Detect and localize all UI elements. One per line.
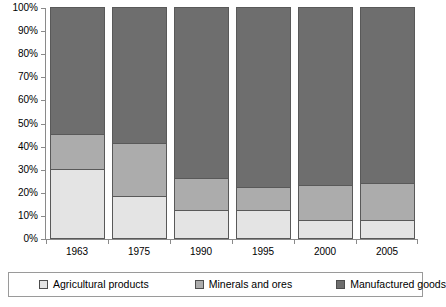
bars-layer <box>46 8 418 239</box>
legend-swatch-icon <box>39 280 48 289</box>
x-tick-label: 2000 <box>314 246 336 258</box>
x-axis-tick-marks <box>46 240 418 244</box>
bar-segment[interactable] <box>298 220 353 239</box>
chart-legend: Agricultural productsMinerals and oresMa… <box>8 272 423 297</box>
bar-segment[interactable] <box>112 7 167 144</box>
bar-group[interactable] <box>174 8 229 239</box>
bar-group[interactable] <box>236 8 291 239</box>
y-tick-label: 80% <box>18 49 38 59</box>
bar-segment[interactable] <box>174 178 229 211</box>
y-tick-label: 10% <box>18 211 38 221</box>
y-tick-label: 30% <box>18 165 38 175</box>
bar-segment[interactable] <box>360 220 415 239</box>
y-tick-label: 20% <box>18 188 38 198</box>
bar-segment[interactable] <box>50 7 105 135</box>
bar-segment[interactable] <box>298 7 353 186</box>
y-tick-label: 90% <box>18 26 38 36</box>
y-axis-labels: 0%10%20%30%40%50%60%70%80%90%100% <box>0 8 38 240</box>
legend-item[interactable]: Agricultural products <box>39 279 149 290</box>
bar-segment[interactable] <box>112 196 167 239</box>
y-tick-label: 0% <box>24 234 38 244</box>
bar-segment[interactable] <box>236 210 291 239</box>
bar-segment[interactable] <box>360 183 415 221</box>
x-tick-label: 2005 <box>376 246 398 258</box>
y-tick-label: 100% <box>12 3 38 13</box>
legend-item[interactable]: Manufactured goods <box>336 279 446 290</box>
y-tick-label: 50% <box>18 119 38 129</box>
legend-swatch-icon <box>195 280 204 289</box>
bar-segment[interactable] <box>174 7 229 179</box>
x-tick-label: 1995 <box>252 246 274 258</box>
bar-group[interactable] <box>298 8 353 239</box>
x-tick-label: 1990 <box>190 246 212 258</box>
bar-segment[interactable] <box>174 210 229 239</box>
x-axis-labels: 196319751990199520002005 <box>46 246 418 260</box>
legend-swatch-icon <box>336 280 345 289</box>
x-tick-label: 1975 <box>128 246 150 258</box>
x-tick-mark <box>170 240 171 244</box>
x-tick-label: 1963 <box>66 246 88 258</box>
x-tick-mark <box>356 240 357 244</box>
y-tick-label: 70% <box>18 72 38 82</box>
bar-segment[interactable] <box>50 169 105 239</box>
bar-segment[interactable] <box>236 187 291 211</box>
x-tick-mark <box>232 240 233 244</box>
legend-label: Agricultural products <box>53 279 149 290</box>
bar-segment[interactable] <box>360 7 415 184</box>
x-tick-mark <box>46 240 47 244</box>
legend-label: Minerals and ores <box>209 279 292 290</box>
x-tick-mark <box>417 240 418 244</box>
legend-label: Manufactured goods <box>350 279 446 290</box>
bar-segment[interactable] <box>50 134 105 170</box>
bar-group[interactable] <box>112 8 167 239</box>
x-tick-mark <box>108 240 109 244</box>
y-tick-label: 60% <box>18 95 38 105</box>
bar-group[interactable] <box>50 8 105 239</box>
legend-item[interactable]: Minerals and ores <box>195 279 292 290</box>
bar-segment[interactable] <box>298 185 353 221</box>
bar-segment[interactable] <box>112 143 167 197</box>
x-tick-mark <box>294 240 295 244</box>
y-tick-label: 40% <box>18 142 38 152</box>
bar-segment[interactable] <box>236 7 291 188</box>
bar-group[interactable] <box>360 8 415 239</box>
